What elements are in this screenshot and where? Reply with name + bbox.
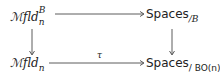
node-bottom-left-base: ℳfld [10,56,39,70]
node-bottom-right-sub: / BO(n) [189,63,220,73]
node-bottom-right-base: Spaces [146,56,189,70]
node-top-left-base: ℳfld [10,10,39,24]
node-bottom-left: ℳfldn [10,56,44,71]
node-top-left: ℳfldBn [10,7,49,27]
arrow-label-tau: τ [97,50,102,60]
node-top-right-sub: /B [189,14,199,24]
node-bottom-left-sub: n [39,63,45,73]
node-top-right: Spaces/B [146,7,198,22]
node-top-right-base: Spaces [146,7,189,21]
node-top-left-sub: n [39,15,45,29]
node-bottom-right: Spaces/ BO(n). [146,56,220,71]
